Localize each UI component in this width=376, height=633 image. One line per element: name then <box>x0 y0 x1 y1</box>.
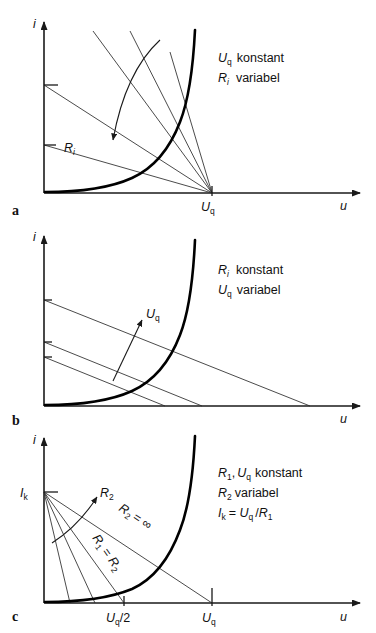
panel-a-xtick-label-uq: Uq <box>201 200 215 216</box>
panel-c-x-axis-label: u <box>340 610 347 624</box>
panel-b-load-lines <box>44 300 310 406</box>
panel-c-y-axis-label: i <box>33 433 37 447</box>
panel-b: Uq i u Rikonstant Uqvariabel b <box>12 230 360 428</box>
diagram-svg: Ri i u Uq Uqkonstant Rivariabel a Uq i u <box>0 0 376 633</box>
panel-c-inline-label: R2 <box>100 486 114 502</box>
panel-b-diode-curve <box>45 240 195 405</box>
panel-a-inline-label: Ri <box>64 141 76 157</box>
panel-a: Ri i u Uq Uqkonstant Rivariabel a <box>12 17 360 218</box>
panel-a-load-lines <box>44 31 212 193</box>
panel-b-y-axis-label: i <box>33 230 37 244</box>
panel-a-note-2: Rivariabel <box>218 71 280 87</box>
figure-diode-load-lines: Ri i u Uq Uqkonstant Rivariabel a Uq i u <box>0 0 376 633</box>
panel-c-note-3: Ik= Uq/R1 <box>218 506 273 522</box>
panel-c: R2 R2= ∞ R1= R2 i u Ik Uq/2 Uq R1,Uqkons… <box>12 433 360 627</box>
panel-b-inline-label: Uq <box>146 307 160 323</box>
panel-c-ytick-label-ik: Ik <box>20 486 28 502</box>
panel-c-letter: c <box>12 609 18 624</box>
panel-b-note-1: Rikonstant <box>218 263 284 279</box>
panel-c-xtick-label-uq: Uq <box>202 611 216 627</box>
panel-a-letter: a <box>12 203 19 218</box>
panel-a-y-axis-label: i <box>33 17 37 31</box>
panel-a-note-1: Uqkonstant <box>218 51 285 67</box>
panel-a-x-axis-label: u <box>340 199 347 213</box>
panel-c-r2-arrow <box>52 497 97 543</box>
panel-b-note-2: Uqvariabel <box>218 283 281 299</box>
panel-c-note-2: R2variabel <box>218 486 279 502</box>
panel-c-fan-label-r2-inf: R2= ∞ <box>115 501 154 534</box>
panel-c-fan-label-r1-r2: R1= R2 <box>88 532 125 575</box>
panel-c-xtick-label-uq-half: Uq/2 <box>106 611 130 627</box>
panel-b-x-axis-label: u <box>340 412 347 426</box>
panel-c-note-1: R1,Uqkonstant <box>218 466 303 482</box>
panel-b-letter: b <box>12 413 20 428</box>
